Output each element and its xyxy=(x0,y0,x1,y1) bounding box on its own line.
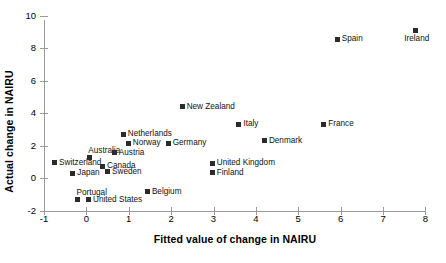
x-tick-label: 3 xyxy=(199,214,229,224)
y-tick-label: 8 xyxy=(2,43,36,53)
y-tick-mark xyxy=(40,146,48,147)
data-point-marker xyxy=(413,28,418,33)
y-tick-mark xyxy=(40,113,48,114)
data-point-marker xyxy=(166,141,171,146)
data-point-label: Finland xyxy=(217,169,244,177)
y-tick-mark xyxy=(40,16,48,17)
y-tick-mark xyxy=(40,81,48,82)
x-tick-label: 0 xyxy=(71,214,101,224)
x-axis-line xyxy=(44,211,426,212)
data-point-label: New Zealand xyxy=(187,103,235,111)
y-tick-mark xyxy=(40,48,48,49)
x-tick-label: 4 xyxy=(241,214,271,224)
data-point-label: United Kingdom xyxy=(217,159,275,167)
data-point-label: Spain xyxy=(342,35,363,43)
data-point-marker xyxy=(321,122,326,127)
data-point-label: United States xyxy=(93,196,142,204)
x-tick-label: 7 xyxy=(368,214,398,224)
data-point-label: Italy xyxy=(243,120,258,128)
y-tick-label: 0 xyxy=(2,173,36,183)
data-point-marker xyxy=(75,197,80,202)
data-point-marker xyxy=(86,197,91,202)
data-point-marker xyxy=(335,37,340,42)
x-tick-label: 8 xyxy=(410,214,440,224)
data-point-label: Belgium xyxy=(152,188,182,196)
x-axis-title: Fitted value of change in NAIRU xyxy=(44,233,426,245)
data-point-label: Sweden xyxy=(112,168,142,176)
data-point-marker xyxy=(87,155,92,160)
data-point-marker xyxy=(112,150,117,155)
data-point-label: Denmark xyxy=(269,137,302,145)
y-tick-label: 4 xyxy=(2,108,36,118)
data-point-marker xyxy=(121,132,126,137)
data-point-label: Austria xyxy=(119,149,144,157)
data-point-marker xyxy=(145,189,150,194)
data-point-marker xyxy=(262,138,267,143)
data-point-marker xyxy=(100,164,105,169)
data-point-marker xyxy=(236,122,241,127)
y-tick-label: 10 xyxy=(2,11,36,21)
data-point-marker xyxy=(52,160,57,165)
scatter-chart: Actual change in NAIRU Fitted value of c… xyxy=(0,0,446,263)
data-point-label: Japan xyxy=(77,169,99,177)
y-tick-label: 6 xyxy=(2,76,36,86)
data-point-marker xyxy=(105,169,110,174)
data-point-marker xyxy=(126,141,131,146)
data-point-marker xyxy=(70,171,75,176)
data-point-marker xyxy=(180,104,185,109)
data-point-label: Switzerland xyxy=(59,159,101,167)
x-tick-label: 5 xyxy=(283,214,313,224)
y-tick-label: 2 xyxy=(2,141,36,151)
x-tick-label: 1 xyxy=(114,214,144,224)
x-tick-label: -1 xyxy=(29,214,59,224)
data-point-marker xyxy=(210,161,215,166)
x-tick-label: 6 xyxy=(326,214,356,224)
data-point-label: France xyxy=(328,120,353,128)
y-tick-mark xyxy=(40,178,48,179)
data-point-label: Norway xyxy=(133,139,161,147)
data-point-marker xyxy=(210,170,215,175)
data-point-label: Ireland xyxy=(404,35,429,43)
y-axis-title: Actual change in NAIRU xyxy=(2,0,16,263)
x-tick-label: 2 xyxy=(156,214,186,224)
data-point-label: Germany xyxy=(173,139,207,147)
